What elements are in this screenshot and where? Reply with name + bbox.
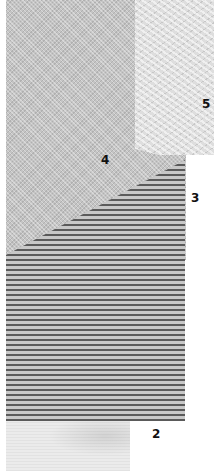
swatch-label-4: 4 — [101, 154, 109, 166]
fabric-swatch-5 — [135, 0, 214, 155]
swatch-label-3: 3 — [191, 192, 199, 204]
swatch-label-2: 2 — [152, 428, 160, 440]
fabric-swatch-2 — [6, 421, 130, 471]
swatch-label-5: 5 — [202, 98, 210, 110]
